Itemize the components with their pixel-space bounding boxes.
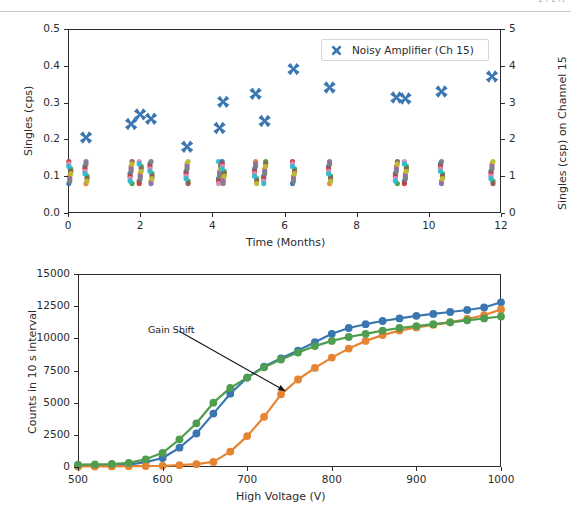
- top-ytick-label: 0.5: [43, 22, 60, 34]
- top-x-axis-label: Time (Months): [246, 236, 325, 249]
- top-y2tick-label: 5: [509, 22, 516, 34]
- bottom-xtick: [78, 467, 79, 471]
- bottom-ytick-label: 12500: [37, 299, 70, 311]
- top-y2tick: [501, 103, 505, 104]
- bottom-xtick: [163, 467, 164, 471]
- bottom-xtick-label: 700: [237, 473, 257, 485]
- bottom-xtick: [501, 467, 502, 471]
- top-y2tick-label: 4: [509, 59, 516, 71]
- top-y-axis-label: Singles (cps): [22, 86, 35, 156]
- bottom-ytick: [74, 338, 78, 339]
- top-ytick: [64, 213, 68, 214]
- bottom-xtick: [247, 467, 248, 471]
- figure-page: 2 r 2 rt Noisy Amplifier (Ch 15) Singles…: [0, 0, 571, 517]
- bottom-ytick-label: 15000: [37, 267, 70, 279]
- bottom-ytick: [74, 467, 78, 468]
- top-xtick: [140, 213, 141, 217]
- top-xtick-label: 10: [422, 219, 435, 231]
- top-ytick-label: 0.1: [43, 169, 60, 181]
- top-xtick: [357, 213, 358, 217]
- bottom-y-axis-label: Counts in 10 s interval: [26, 310, 39, 434]
- bottom-ytick-label: 0: [63, 460, 70, 472]
- top-y2tick-label: 3: [509, 96, 516, 108]
- bottom-xtick-label: 600: [153, 473, 173, 485]
- top-y2tick: [501, 213, 505, 214]
- bottom-ytick: [74, 435, 78, 436]
- cut-off-header-text: 2 r 2 rt: [539, 0, 565, 4]
- bottom-x-axis-label: High Voltage (V): [236, 490, 326, 503]
- top-ytick-label: 0.0: [43, 206, 60, 218]
- chart-singles-vs-time: Noisy Amplifier (Ch 15) Singles (cps) Si…: [0, 14, 571, 254]
- top-ytick: [64, 66, 68, 67]
- top-y2tick: [501, 66, 505, 67]
- top-y2tick: [501, 176, 505, 177]
- legend-noisy-amplifier[interactable]: Noisy Amplifier (Ch 15): [321, 39, 489, 61]
- bottom-ytick-label: 7500: [43, 364, 70, 376]
- top-xtick-label: 12: [494, 219, 507, 231]
- top-xtick-label: 6: [281, 219, 288, 231]
- bottom-xtick: [332, 467, 333, 471]
- chart-counts-vs-high-voltage: Gain Shift Counts in 10 s interval High …: [0, 262, 571, 517]
- top-xtick-label: 2: [137, 219, 144, 231]
- top-y2tick-label: 1: [509, 169, 516, 181]
- bottom-ytick: [74, 274, 78, 275]
- top-ytick-label: 0.4: [43, 59, 60, 71]
- top-ytick: [64, 103, 68, 104]
- top-ytick: [64, 29, 68, 30]
- top-ytick: [64, 176, 68, 177]
- bottom-ytick: [74, 403, 78, 404]
- top-ytick: [64, 139, 68, 140]
- page-top-cut-region: 2 r 2 rt: [0, 0, 571, 14]
- bottom-xtick: [416, 467, 417, 471]
- bottom-xtick-label: 900: [406, 473, 426, 485]
- top-y2tick-label: 0: [509, 206, 516, 218]
- top-y2tick: [501, 139, 505, 140]
- bottom-ytick-label: 5000: [43, 396, 70, 408]
- top-ytick-label: 0.3: [43, 96, 60, 108]
- top-ytick-label: 0.2: [43, 132, 60, 144]
- top-y2tick-label: 2: [509, 132, 516, 144]
- top-xtick: [429, 213, 430, 217]
- bottom-ytick: [74, 306, 78, 307]
- bottom-xtick-label: 1000: [488, 473, 515, 485]
- top-xtick-label: 4: [209, 219, 216, 231]
- legend-x-marker-icon: [331, 45, 342, 56]
- header-divider-line: [0, 11, 571, 12]
- bottom-xtick-label: 800: [322, 473, 342, 485]
- legend-label-noisy-amplifier: Noisy Amplifier (Ch 15): [352, 44, 474, 56]
- top-y2-axis-label: Singles (csp) on Channel 15: [556, 56, 569, 210]
- bottom-ytick: [74, 371, 78, 372]
- bottom-ytick-label: 2500: [43, 428, 70, 440]
- bottom-ytick-label: 10000: [37, 331, 70, 343]
- top-xtick: [212, 213, 213, 217]
- top-xtick-label: 8: [353, 219, 360, 231]
- top-xtick: [285, 213, 286, 217]
- top-y2tick: [501, 29, 505, 30]
- annotation-gain-shift: Gain Shift: [148, 324, 194, 335]
- bottom-xtick-label: 500: [68, 473, 88, 485]
- top-xtick: [68, 213, 69, 217]
- top-xtick-label: 0: [65, 219, 72, 231]
